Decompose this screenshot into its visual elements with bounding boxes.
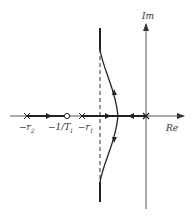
pole-r1-sub: 1	[90, 127, 94, 134]
zero-label: −1/TI	[48, 123, 73, 134]
pole-r2-label: −r2	[19, 123, 35, 134]
imag-axis-label: Im	[142, 12, 154, 21]
root-locus-diagram	[0, 0, 192, 219]
pole-r2-text: −r	[19, 122, 31, 132]
zero-text: −1/T	[48, 122, 70, 132]
pole-r2-sub: 2	[31, 127, 35, 134]
real-axis-label: Re	[166, 124, 178, 133]
pole-r1-label: −r1	[78, 123, 94, 134]
direction-arrow-icon	[46, 113, 52, 119]
locus-branch-upper	[100, 50, 118, 116]
zero-sub: I	[70, 127, 72, 134]
pole-r1-text: −r	[78, 122, 90, 132]
direction-arrow-icon	[105, 113, 111, 119]
zero-icon	[64, 113, 69, 118]
direction-arrow-icon	[128, 113, 134, 119]
locus-branch-lower	[100, 116, 118, 182]
